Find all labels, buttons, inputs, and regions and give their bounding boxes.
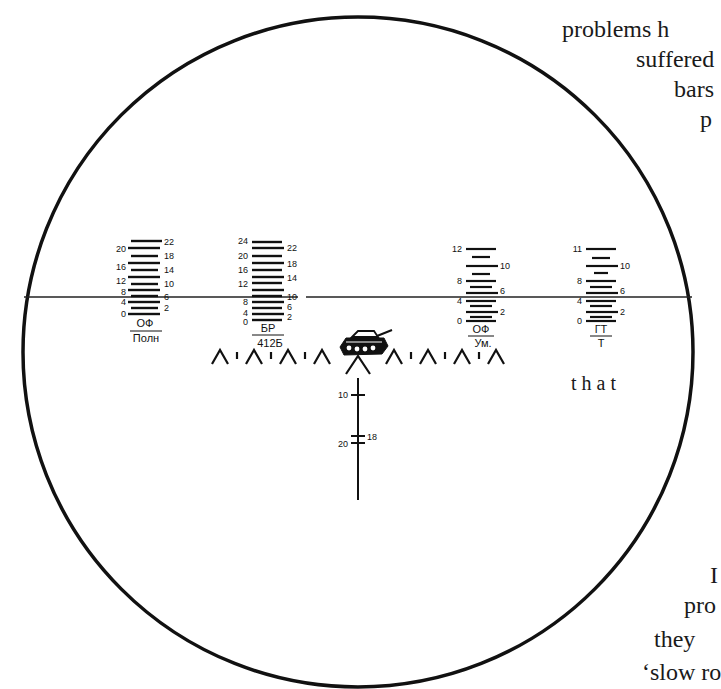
range-scale-of-poln: 20 16 12 8 4 0 22 18 14 10 6 2 ОФ Полн [116,237,174,344]
scale-label: 0 [121,309,126,319]
scale-bottom-label: Полн [133,332,159,344]
svg-text:14: 14 [287,273,297,283]
svg-text:8: 8 [457,276,462,286]
svg-text:6: 6 [500,286,505,296]
svg-text:6: 6 [620,286,625,296]
stadia-label: 20 [338,439,348,449]
svg-text:4: 4 [457,296,462,306]
svg-text:24: 24 [238,236,248,246]
scale-label: 16 [116,262,126,272]
svg-text:0: 0 [577,316,582,326]
svg-text:Т: Т [598,337,605,349]
svg-text:2: 2 [287,312,292,322]
svg-text:22: 22 [287,243,297,253]
scale-label: 8 [121,287,126,297]
stadia-label: 10 [338,390,348,400]
svg-text:18: 18 [287,259,297,269]
vertical-stadia-scale [351,378,365,500]
svg-text:8: 8 [243,297,248,307]
svg-text:20: 20 [238,251,248,261]
svg-text:10: 10 [287,292,297,302]
stadia-label: 18 [367,432,377,442]
scale-label: 20 [116,244,126,254]
svg-text:0: 0 [243,317,248,327]
tank-silhouette-icon [340,330,392,355]
svg-text:16: 16 [238,265,248,275]
svg-text:4: 4 [577,296,582,306]
svg-text:БР: БР [261,322,276,334]
svg-text:8: 8 [577,276,582,286]
svg-text:12: 12 [452,244,462,254]
svg-text:6: 6 [287,302,292,312]
scale-label: 18 [164,251,174,261]
svg-text:10: 10 [620,261,630,271]
scale-label: 2 [164,303,169,313]
svg-text:10: 10 [500,261,510,271]
svg-text:ГТ: ГТ [595,323,608,335]
svg-text:Ум.: Ум. [474,337,491,349]
svg-text:2: 2 [500,307,505,317]
svg-text:11: 11 [573,244,582,254]
scale-label: 6 [164,292,169,302]
range-scale-br-412b: 24 20 16 12 8 4 0 22 18 14 10 6 2 БР 412… [238,236,297,349]
svg-text:2: 2 [620,307,625,317]
svg-text:12: 12 [238,279,248,289]
scale-label: 4 [121,297,126,307]
scale-top-label: ОФ [137,317,154,329]
scale-label: 12 [116,276,126,286]
svg-text:412Б: 412Б [257,337,283,349]
scale-label: 10 [164,279,174,289]
scale-label: 14 [164,265,174,275]
scale-label: 22 [164,237,174,247]
svg-text:ОФ: ОФ [473,323,490,335]
svg-text:0: 0 [457,316,462,326]
